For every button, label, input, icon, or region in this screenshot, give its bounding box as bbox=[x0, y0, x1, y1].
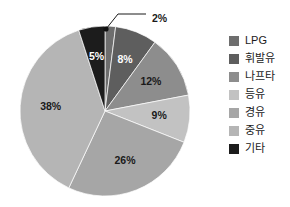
callout-marker-dot bbox=[103, 26, 108, 31]
legend-swatch-icon bbox=[229, 36, 239, 46]
legend-item-4[interactable]: 등유 bbox=[229, 88, 290, 101]
legend-item-2[interactable]: 휘발유 bbox=[229, 52, 290, 65]
legend-swatch-icon bbox=[229, 72, 239, 82]
pie-slice-label-5: 26% bbox=[114, 154, 136, 166]
chart-legend: LPG휘발유나프타등유경유중유기타 bbox=[229, 34, 290, 155]
legend-swatch-icon bbox=[229, 108, 239, 118]
pie-slice-label-4: 9% bbox=[152, 109, 168, 121]
legend-item-7[interactable]: 기타 bbox=[229, 142, 290, 155]
legend-swatch-icon bbox=[229, 126, 239, 136]
legend-swatch-icon bbox=[229, 54, 239, 64]
pie-slice-label-2: 8% bbox=[117, 53, 133, 65]
legend-swatch-icon bbox=[229, 90, 239, 100]
pie-slice-label-3: 12% bbox=[140, 75, 162, 87]
pie-slice-label-7: 5% bbox=[89, 50, 105, 62]
legend-item-label: 등유 bbox=[245, 88, 265, 101]
legend-item-label: 중유 bbox=[245, 124, 265, 137]
pie-chart-figure: 8%12%9%26%38%5% 2% LPG휘발유나프타등유경유중유기타 bbox=[0, 0, 290, 207]
legend-item-label: LPG bbox=[245, 34, 267, 47]
legend-item-5[interactable]: 경유 bbox=[229, 106, 290, 119]
legend-item-label: 기타 bbox=[245, 142, 265, 155]
legend-item-3[interactable]: 나프타 bbox=[229, 70, 290, 83]
legend-item-label: 휘발유 bbox=[245, 52, 275, 65]
pie-svg: 8%12%9%26%38%5% 2% bbox=[0, 0, 215, 207]
legend-item-1[interactable]: LPG bbox=[229, 34, 290, 47]
legend-item-6[interactable]: 중유 bbox=[229, 124, 290, 137]
pie-plot-area: 8%12%9%26%38%5% 2% bbox=[0, 0, 215, 207]
callout-label-lpg: 2% bbox=[152, 12, 168, 24]
legend-item-label: 나프타 bbox=[245, 70, 275, 83]
legend-swatch-icon bbox=[229, 144, 239, 154]
pie-slice-label-6: 38% bbox=[40, 100, 62, 112]
legend-item-label: 경유 bbox=[245, 106, 265, 119]
